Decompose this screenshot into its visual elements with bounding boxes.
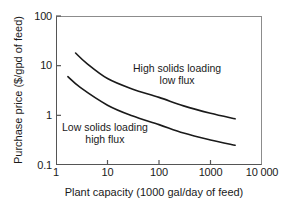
y-tick-label: 10	[40, 60, 52, 71]
annotation-low-solids-line1: Low solids loading	[62, 121, 148, 133]
y-tick-label: 1	[46, 110, 52, 121]
chart-figure: 0.1110100 110100100010 000 Purchase pric…	[0, 0, 294, 208]
x-tick-label: 10 000	[246, 167, 278, 178]
x-tick-label: 1000	[199, 167, 223, 178]
annotation-high-solids-line1: High solids loading	[133, 62, 221, 74]
y-axis-title: Purchase price ($/gpd of feed)	[12, 10, 24, 170]
x-tick-label: 10	[102, 167, 114, 178]
x-tick-label: 1	[53, 167, 59, 178]
y-tick-label: 100	[34, 11, 52, 22]
annotation-high-solids-line2: low flux	[133, 74, 221, 86]
x-tick-label: 100	[150, 167, 168, 178]
annotation-high-solids: High solids loading low flux	[133, 62, 221, 86]
x-axis-title: Plant capacity (1000 gal/day of feed)	[0, 186, 294, 198]
x-axis-tick-labels: 110100100010 000	[0, 167, 294, 181]
annotation-low-solids: Low solids loading high flux	[62, 121, 148, 145]
annotation-low-solids-line2: high flux	[62, 133, 148, 145]
